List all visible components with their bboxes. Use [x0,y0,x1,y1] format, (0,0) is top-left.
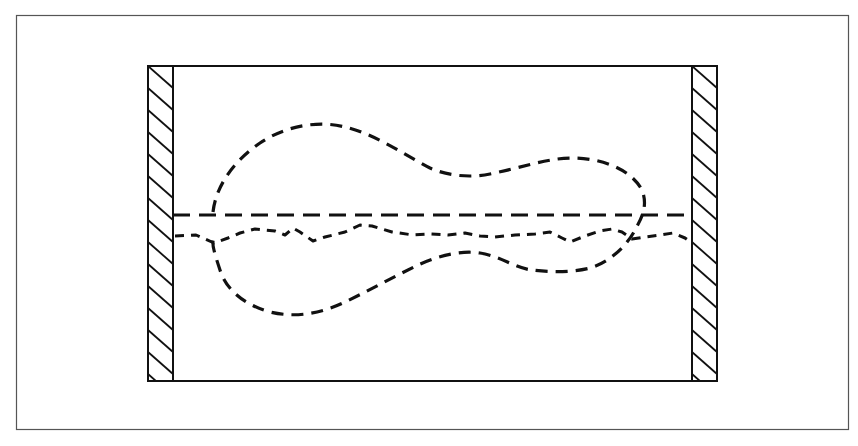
left-wall [148,44,173,396]
wavy-line [175,225,692,243]
dumbbell-contour [213,124,645,315]
right-wall [692,44,717,396]
channel-box [148,66,717,381]
diagram-canvas [0,0,858,446]
outer-frame [17,16,849,430]
